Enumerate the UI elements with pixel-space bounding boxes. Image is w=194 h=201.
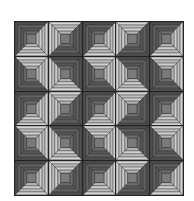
quilt-block — [83, 92, 116, 126]
quilt-block — [150, 22, 183, 56]
quilt-block — [15, 22, 48, 56]
quilt-block — [49, 126, 82, 160]
log-cabin-block-graphic — [116, 126, 149, 160]
quilt-block — [150, 57, 183, 91]
quilt-block — [83, 161, 116, 195]
quilt-block — [49, 92, 82, 126]
log-cabin-quilt — [14, 21, 184, 196]
log-cabin-block-graphic — [116, 161, 149, 195]
quilt-block — [116, 57, 149, 91]
log-cabin-block-graphic — [15, 57, 48, 91]
log-cabin-block-graphic — [15, 22, 48, 56]
quilt-block — [83, 22, 116, 56]
quilt-block — [15, 126, 48, 160]
quilt-block — [49, 57, 82, 91]
log-cabin-block-graphic — [150, 92, 183, 126]
log-cabin-block-graphic — [15, 161, 48, 195]
quilt-block — [83, 126, 116, 160]
quilt-block — [116, 92, 149, 126]
quilt-block — [83, 57, 116, 91]
log-cabin-block-graphic — [83, 126, 116, 160]
log-cabin-block-graphic — [49, 161, 82, 195]
log-cabin-block-graphic — [49, 22, 82, 56]
log-cabin-block-graphic — [83, 22, 116, 56]
log-cabin-block-graphic — [49, 57, 82, 91]
log-cabin-block-graphic — [83, 57, 116, 91]
log-cabin-block-graphic — [116, 92, 149, 126]
quilt-block — [150, 126, 183, 160]
log-cabin-block-graphic — [116, 57, 149, 91]
log-cabin-block-graphic — [150, 126, 183, 160]
log-cabin-block-graphic — [83, 161, 116, 195]
log-cabin-block-graphic — [150, 22, 183, 56]
quilt-block — [116, 126, 149, 160]
log-cabin-block-graphic — [116, 22, 149, 56]
log-cabin-block-graphic — [49, 126, 82, 160]
quilt-block — [15, 57, 48, 91]
log-cabin-block-graphic — [15, 92, 48, 126]
log-cabin-block-graphic — [150, 161, 183, 195]
quilt-block — [49, 161, 82, 195]
quilt-block — [150, 161, 183, 195]
quilt-block — [49, 22, 82, 56]
quilt-block — [15, 161, 48, 195]
quilt-block — [116, 161, 149, 195]
quilt-block — [15, 92, 48, 126]
log-cabin-block-graphic — [15, 126, 48, 160]
quilt-block — [150, 92, 183, 126]
log-cabin-block-graphic — [49, 92, 82, 126]
log-cabin-block-graphic — [83, 92, 116, 126]
quilt-block — [116, 22, 149, 56]
log-cabin-block-graphic — [150, 57, 183, 91]
